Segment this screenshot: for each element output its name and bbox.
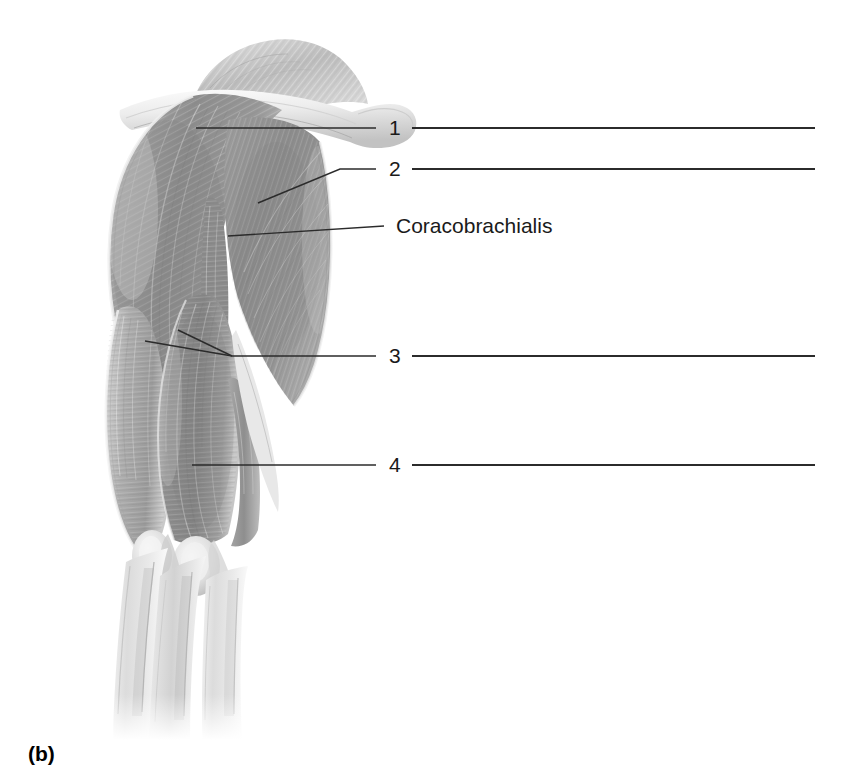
anatomy-figure: 1 2 Coracobrachialis 3 4 (b) [0,0,858,784]
label-1-number: 1 [389,117,401,138]
label-2-number: 2 [389,158,401,179]
label-4-number: 4 [389,454,401,475]
figure-caption: (b) [28,742,55,766]
shoulder-arm-illustration [0,0,420,740]
label-3-number: 3 [389,345,401,366]
label-coracobrachialis-text: Coracobrachialis [396,215,552,236]
